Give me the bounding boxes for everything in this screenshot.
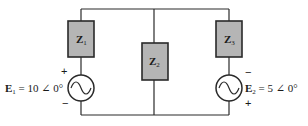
- source-label: E1 = 10 ∠ 0°: [5, 82, 63, 96]
- polarity-plus: +: [245, 97, 251, 109]
- impedance-z2: Z2: [142, 43, 168, 80]
- polarity-minus: −: [245, 66, 251, 78]
- circuit-diagram: Z1 Z2 Z3 + − E1 = 10 ∠ 0° − + E2 = 5 ∠ 0…: [0, 0, 308, 126]
- polarity-plus: +: [61, 65, 67, 77]
- impedance-z3: Z3: [216, 21, 242, 57]
- source-label: E2 = 5 ∠ 0°: [245, 82, 298, 96]
- impedance-z1: Z1: [68, 21, 94, 57]
- polarity-minus: −: [62, 97, 68, 109]
- ac-source-e2: − + E2 = 5 ∠ 0°: [216, 66, 298, 109]
